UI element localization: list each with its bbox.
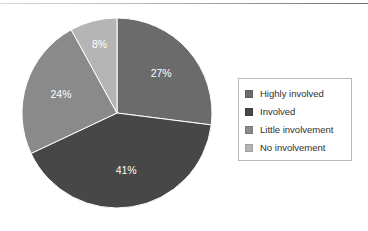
legend-item-label: Involved xyxy=(260,107,295,117)
legend-item-little-involvement[interactable]: Little involvement xyxy=(245,121,351,139)
pie-data-label: 8% xyxy=(92,38,107,50)
legend-item-highly-involved[interactable]: Highly involved xyxy=(245,85,351,103)
pie-data-label: 27% xyxy=(151,67,172,79)
pie-chart-plot-area: 27%41%24%8% xyxy=(21,17,213,209)
legend-square-icon xyxy=(245,108,253,116)
legend-item-label: Little involvement xyxy=(260,125,333,135)
legend-square-icon xyxy=(245,126,253,134)
pie-data-label: 24% xyxy=(50,88,71,100)
legend-item-label: No involvement xyxy=(260,143,325,153)
legend-square-icon xyxy=(245,144,253,152)
chart-legend: Highly involved Involved Little involvem… xyxy=(238,78,352,161)
pie-chart-svg: 27%41%24%8% xyxy=(21,17,213,209)
pie-slice-group xyxy=(22,18,212,208)
legend-item-label: Highly involved xyxy=(260,89,324,99)
legend-item-no-involvement[interactable]: No involvement xyxy=(245,139,351,157)
pie-chart-figure: 27%41%24%8% Highly involved Involved Lit… xyxy=(0,0,368,231)
header-divider xyxy=(0,3,368,4)
legend-square-icon xyxy=(245,90,253,98)
legend-item-involved[interactable]: Involved xyxy=(245,103,351,121)
pie-data-label: 41% xyxy=(116,164,137,176)
